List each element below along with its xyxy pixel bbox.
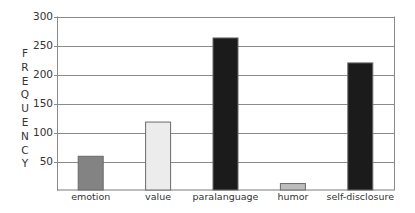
- bar-emotion: [78, 156, 103, 190]
- y-tick-label: 200: [13, 68, 53, 80]
- y-tick-label: 250: [13, 39, 53, 51]
- bar-chart: FREQUENCY 50100150200250300 emotionvalue…: [0, 0, 415, 213]
- y-tick-label: 100: [13, 126, 53, 138]
- y-tick-label: 150: [13, 97, 53, 109]
- bar-humor: [280, 184, 305, 190]
- bar-self-disclosure: [348, 63, 373, 190]
- bar-paralanguage: [213, 38, 238, 190]
- y-tick-label: 300: [13, 10, 53, 22]
- x-tick-label: self-disclosure: [315, 191, 405, 202]
- y-tick-label: 50: [13, 155, 53, 167]
- plot-area: [0, 0, 415, 213]
- bar-value: [146, 122, 171, 190]
